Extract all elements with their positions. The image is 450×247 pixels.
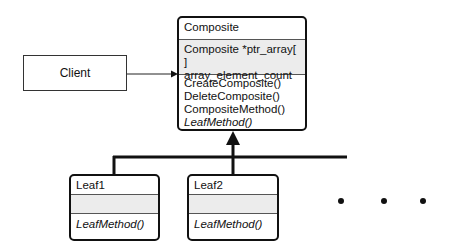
leaf-method: LeafMethod()	[71, 214, 158, 233]
leaf-name: Leaf2	[189, 176, 277, 195]
attribute: Composite *ptr_array[ ]	[184, 43, 300, 69]
leaf-name: Leaf1	[71, 176, 158, 195]
client-class: Client	[23, 55, 127, 91]
leaf-method: LeafMethod()	[189, 214, 277, 233]
client-label: Client	[60, 66, 91, 80]
inheritance-arrowhead-icon	[226, 131, 240, 145]
ellipsis-dot	[381, 198, 387, 204]
leaf-attributes	[189, 195, 277, 214]
ellipsis-dot	[420, 198, 426, 204]
abstract-method: LeafMethod()	[184, 116, 300, 129]
composite-name: Composite	[179, 18, 305, 40]
ellipsis-dot	[338, 198, 344, 204]
composite-class: Composite Composite *ptr_array[ ] array_…	[177, 16, 307, 131]
composite-attributes: Composite *ptr_array[ ] array_element_co…	[179, 40, 305, 75]
leaf2-class: Leaf2 LeafMethod()	[187, 174, 279, 241]
method: CompositeMethod()	[184, 103, 300, 116]
leaf1-class: Leaf1 LeafMethod()	[69, 174, 160, 241]
leaf-attributes	[71, 195, 158, 214]
method: DeleteComposite()	[184, 90, 300, 103]
composite-methods: CreateComposite() DeleteComposite() Comp…	[179, 75, 305, 131]
